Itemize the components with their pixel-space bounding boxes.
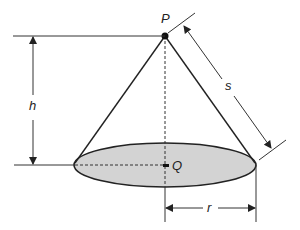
slant-extension-top (168, 13, 195, 33)
base-center-label: Q (172, 159, 182, 172)
cone-diagram (0, 0, 300, 230)
apex-label: P (161, 12, 170, 25)
slant-extension-bottom (259, 140, 286, 160)
height-label: h (29, 99, 36, 112)
slant-height-label: s (225, 79, 232, 92)
radius-label: r (207, 201, 211, 214)
base-center-point (163, 164, 169, 167)
